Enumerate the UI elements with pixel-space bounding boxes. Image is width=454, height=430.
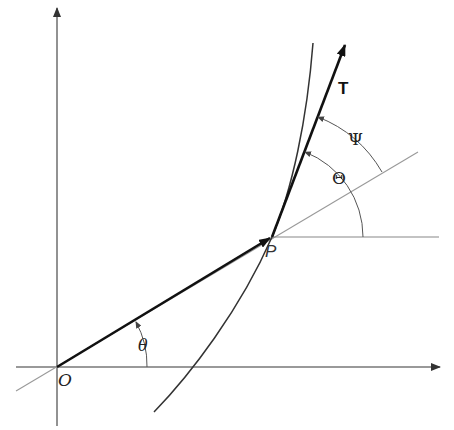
point-p-label: P: [265, 242, 277, 261]
capital-theta-arc: [305, 152, 363, 237]
polar-curve: [154, 43, 313, 412]
polar-tangent-diagram: O P θ T Θ Ψ: [0, 0, 454, 430]
tangent-vector: [272, 45, 345, 237]
theta-label: θ: [138, 336, 148, 355]
capital-theta-label: Θ: [332, 168, 346, 188]
tangent-label: T: [338, 79, 349, 98]
psi-label: Ψ: [348, 129, 363, 149]
origin-label: O: [58, 370, 72, 390]
